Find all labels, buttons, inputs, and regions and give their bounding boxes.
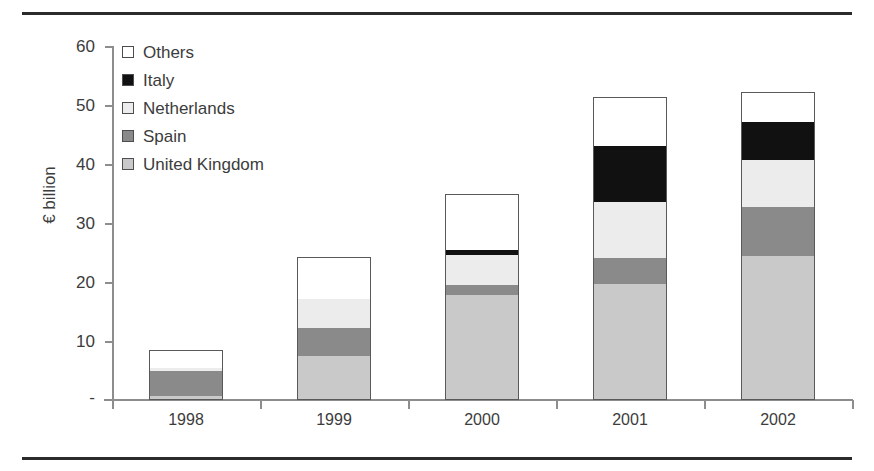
y-tick-40	[105, 164, 113, 166]
figure-stacked-bar-chart: € billion 60 50 40 30 20 10 - 1998 1999 …	[0, 0, 874, 471]
y-axis-title: € billion	[40, 135, 60, 255]
legend-label-spain: Spain	[143, 128, 186, 145]
bar-segment-2002-others[interactable]	[741, 92, 815, 121]
x-tick-label-2002: 2002	[718, 412, 838, 428]
legend-item-united-kingdom[interactable]: United Kingdom	[122, 150, 264, 178]
bar-segment-2000-netherlands[interactable]	[445, 255, 519, 284]
bar-segment-2002-netherlands[interactable]	[741, 160, 815, 207]
y-tick-label-10: 10	[25, 333, 95, 350]
bar-segment-1999-united-kingdom[interactable]	[297, 356, 371, 400]
x-tick-label-2000: 2000	[422, 412, 542, 428]
y-tick-10	[105, 341, 113, 343]
x-tick-4	[704, 400, 706, 409]
bar-segment-1998-spain[interactable]	[149, 371, 223, 396]
legend-label-italy: Italy	[143, 72, 174, 89]
legend-swatch-netherlands-icon	[122, 102, 134, 114]
y-tick-50	[105, 105, 113, 107]
bar-segment-2001-spain[interactable]	[593, 258, 667, 283]
y-tick-label-0: -	[25, 389, 95, 406]
y-tick-label-20: 20	[25, 274, 95, 291]
bar-segment-2002-italy[interactable]	[741, 122, 815, 160]
bar-1999[interactable]	[297, 257, 371, 400]
bottom-horizontal-rule	[22, 457, 852, 460]
legend-swatch-italy-icon	[122, 74, 134, 86]
y-tick-label-30: 30	[25, 215, 95, 232]
legend: Others Italy Netherlands Spain United Ki…	[122, 38, 264, 178]
legend-swatch-others-icon	[122, 46, 134, 58]
bar-segment-2001-netherlands[interactable]	[593, 202, 667, 258]
bar-2000[interactable]	[445, 194, 519, 400]
legend-item-netherlands[interactable]: Netherlands	[122, 94, 264, 122]
legend-label-united-kingdom: United Kingdom	[143, 156, 264, 173]
legend-label-netherlands: Netherlands	[143, 100, 235, 117]
legend-item-spain[interactable]: Spain	[122, 122, 264, 150]
x-tick-0	[112, 400, 114, 409]
bar-segment-2000-spain[interactable]	[445, 285, 519, 296]
bar-segment-2000-others[interactable]	[445, 194, 519, 250]
bar-2002[interactable]	[741, 92, 815, 400]
legend-item-italy[interactable]: Italy	[122, 66, 264, 94]
y-tick-label-60: 60	[25, 38, 95, 55]
y-tick-20	[105, 282, 113, 284]
bar-segment-2002-spain[interactable]	[741, 207, 815, 256]
x-tick-2	[408, 400, 410, 409]
bar-2001[interactable]	[593, 97, 667, 400]
top-horizontal-rule	[22, 12, 852, 15]
x-tick-label-1998: 1998	[126, 412, 246, 428]
bar-segment-2001-others[interactable]	[593, 97, 667, 146]
bar-segment-2001-united-kingdom[interactable]	[593, 284, 667, 400]
bar-segment-1999-spain[interactable]	[297, 328, 371, 356]
bar-segment-1999-netherlands[interactable]	[297, 299, 371, 328]
x-tick-label-2001: 2001	[570, 412, 690, 428]
legend-swatch-spain-icon	[122, 130, 134, 142]
y-tick-label-40: 40	[25, 156, 95, 173]
bar-segment-2001-italy[interactable]	[593, 146, 667, 202]
x-tick-label-1999: 1999	[274, 412, 394, 428]
bar-1998[interactable]	[149, 350, 223, 400]
y-tick-30	[105, 223, 113, 225]
legend-item-others[interactable]: Others	[122, 38, 264, 66]
bar-segment-1999-others[interactable]	[297, 257, 371, 299]
y-tick-60	[105, 46, 113, 48]
bar-segment-1998-united-kingdom[interactable]	[149, 396, 223, 400]
bar-segment-2000-united-kingdom[interactable]	[445, 295, 519, 400]
x-tick-1	[260, 400, 262, 409]
bar-segment-2002-united-kingdom[interactable]	[741, 256, 815, 400]
bar-segment-1998-others[interactable]	[149, 350, 223, 368]
legend-label-others: Others	[143, 44, 194, 61]
y-tick-label-50: 50	[25, 97, 95, 114]
x-tick-5	[852, 400, 854, 409]
x-tick-3	[556, 400, 558, 409]
legend-swatch-united-kingdom-icon	[122, 158, 134, 170]
